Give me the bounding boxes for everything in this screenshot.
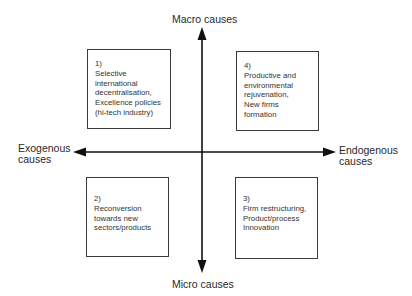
quadrant-number: 3) bbox=[243, 194, 311, 204]
quadrant-text-line: Reconversion bbox=[94, 204, 162, 214]
quadrant-number: 4) bbox=[244, 61, 312, 71]
quadrant-text-line: towards new bbox=[94, 214, 162, 224]
quadrant-text-line: Product/process bbox=[243, 214, 311, 224]
quadrant-text-line: formation bbox=[244, 110, 312, 120]
quadrant-text-line: environmental bbox=[244, 81, 312, 91]
exogenous-causes-label: Exogenous causes bbox=[18, 143, 71, 165]
quadrant-3-box: 3) Firm restructuring, Product/process I… bbox=[235, 177, 318, 259]
endogenous-label-line: causes bbox=[339, 156, 398, 167]
quadrant-text-line: Firm restructuring, bbox=[243, 204, 311, 214]
quadrant-text-line: Excellence policies bbox=[95, 98, 164, 108]
quadrant-4-box: 4) Productive and environmental rejuvena… bbox=[236, 51, 319, 131]
arrow-up-icon bbox=[198, 27, 207, 40]
quadrant-number: 2) bbox=[94, 194, 162, 204]
quadrant-diagram: Macro causes Micro causes Exogenous caus… bbox=[0, 0, 412, 296]
exogenous-label-line: causes bbox=[18, 154, 71, 165]
quadrant-text-line: rejuvenation, bbox=[244, 90, 312, 100]
arrow-down-icon bbox=[198, 260, 207, 273]
quadrant-text-line: international bbox=[95, 79, 164, 89]
quadrant-text-line: sectors/products bbox=[94, 223, 162, 233]
quadrant-text-line: (hi-tech industry) bbox=[95, 108, 164, 118]
quadrant-text-line: Productive and bbox=[244, 71, 312, 81]
arrow-right-icon bbox=[323, 148, 336, 157]
quadrant-text-line: decentralisation, bbox=[95, 88, 164, 98]
quadrant-number: 1) bbox=[95, 59, 164, 69]
endogenous-causes-label: Endogenous causes bbox=[339, 145, 398, 167]
quadrant-text-line: Innovation bbox=[243, 223, 311, 233]
quadrant-1-box: 1) Selective international decentralisat… bbox=[87, 49, 171, 129]
quadrant-text-line: New firms bbox=[244, 100, 312, 110]
quadrant-text-line: Selective bbox=[95, 69, 164, 79]
micro-causes-label: Micro causes bbox=[172, 279, 234, 290]
quadrant-2-box: 2) Reconversion towards new sectors/prod… bbox=[86, 177, 169, 257]
macro-causes-label: Macro causes bbox=[172, 14, 237, 25]
arrow-left-icon bbox=[73, 148, 86, 157]
